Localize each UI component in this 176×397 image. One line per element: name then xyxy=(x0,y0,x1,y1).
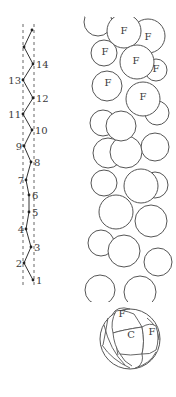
subunit-label: F xyxy=(145,31,152,42)
subunit-label: F xyxy=(105,77,112,88)
end-view-subunit-label: F xyxy=(119,308,126,319)
strand-point xyxy=(32,63,35,66)
strand-point xyxy=(32,279,35,282)
strand-point-label: 5 xyxy=(32,207,38,218)
strand-point-label: 13 xyxy=(8,75,21,86)
strand-point xyxy=(22,79,25,82)
strand-point xyxy=(31,29,34,32)
strand-point xyxy=(23,46,26,49)
strand-point-label: 2 xyxy=(16,258,22,269)
strand-point-label: 14 xyxy=(36,59,49,70)
subunit-label: F xyxy=(102,46,109,57)
filament-end-view: FCF xyxy=(100,308,160,369)
strand-point xyxy=(25,179,28,182)
strand-point-label: 7 xyxy=(18,175,24,186)
strand-point xyxy=(30,161,33,164)
strand-point-label: 8 xyxy=(34,157,40,168)
strand-point-label: 12 xyxy=(36,93,49,104)
strand-point-label: 6 xyxy=(32,190,38,201)
end-view-subunit-label: F xyxy=(149,326,156,337)
end-view-subunit-label: C xyxy=(127,329,135,340)
strand-point xyxy=(32,97,35,100)
strand-point xyxy=(30,246,33,249)
figure-canvas: 1234567891011121314 FFFFFFF xyxy=(0,0,176,397)
left-helix-schematic: 1234567891011121314 xyxy=(8,24,48,286)
subunit-label: F xyxy=(133,55,140,66)
strand-point xyxy=(25,228,28,231)
filament-side-view: FFFFFFF xyxy=(84,0,176,312)
strand-point xyxy=(23,145,26,148)
strand-point-label: 1 xyxy=(36,275,42,286)
strand-point xyxy=(28,194,31,197)
subunit-label: F xyxy=(153,63,160,74)
strand-point xyxy=(31,129,34,132)
strand-point xyxy=(23,262,26,265)
subunit-label: F xyxy=(121,25,128,36)
strand-point-label: 9 xyxy=(16,141,22,152)
strand-point-label: 3 xyxy=(34,242,40,253)
zigzag-strand xyxy=(23,30,33,280)
strand-point xyxy=(28,211,31,214)
strand-point-label: 11 xyxy=(8,109,21,120)
strand-point xyxy=(22,113,25,116)
subunit-label: F xyxy=(140,91,147,102)
strand-point-label: 4 xyxy=(18,224,24,235)
strand-point-label: 10 xyxy=(35,125,48,136)
